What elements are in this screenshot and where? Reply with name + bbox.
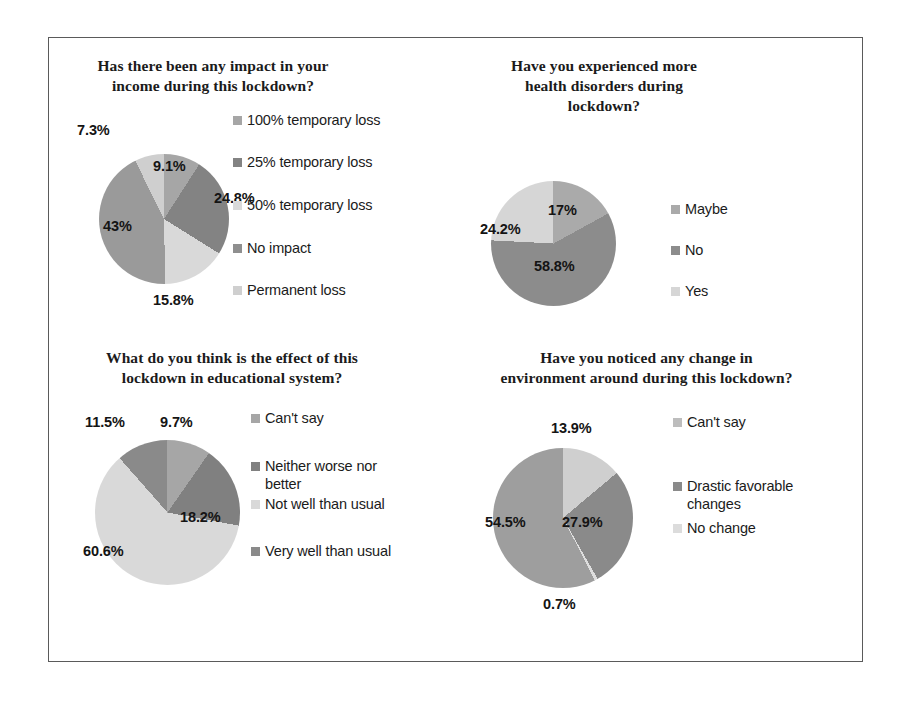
legend-swatch-icon: [233, 244, 242, 253]
pie-slices-health-disorders: [491, 181, 616, 306]
chart-panel-education-effect: What do you think is the effect of this …: [55, 348, 455, 648]
chart-title-education-effect: What do you think is the effect of this …: [67, 348, 397, 388]
legend-item-no[interactable]: No: [671, 242, 836, 260]
pie-label-no-impact: 43%: [103, 218, 132, 234]
legend-swatch-icon: [251, 462, 260, 471]
legend-label: No impact: [247, 240, 311, 258]
legend-swatch-icon: [671, 287, 680, 296]
pie-label-cant-say: 9.7%: [160, 414, 193, 430]
chart-title-environment-change: Have you noticed any change in environme…: [449, 348, 844, 388]
legend-item-50-temporary-loss[interactable]: 50% temporary loss: [233, 197, 428, 215]
legend-label: Maybe: [685, 201, 728, 219]
legend-item-maybe[interactable]: Maybe: [671, 201, 836, 219]
legend-swatch-icon: [233, 201, 242, 210]
legend-item-drastic-favorable-changes[interactable]: Drastic favorable changes: [673, 478, 848, 513]
legend-item-no-change[interactable]: No change: [673, 520, 848, 538]
chart-panel-environment-change: Have you noticed any change in environme…: [445, 348, 860, 648]
legend-swatch-icon: [251, 500, 260, 509]
legend-item-yes[interactable]: Yes: [671, 283, 836, 301]
legend-label: Permanent loss: [247, 282, 346, 300]
legend-item-very-well-than-usual[interactable]: Very well than usual: [251, 543, 446, 561]
legend-health-disorders: Maybe No Yes: [671, 201, 836, 300]
legend-label: Yes: [685, 283, 708, 301]
legend-education-effect: Can't say Neither worse nor better Not w…: [251, 410, 446, 561]
legend-label: 25% temporary loss: [247, 154, 372, 172]
pie-label-no: 58.8%: [534, 258, 575, 274]
pie-label-neither-worse-nor-better: 18.2%: [180, 509, 221, 525]
chart-panel-health-disorders: Have you experienced more health disorde…: [449, 56, 849, 346]
pie-label-permanent-loss: 7.3%: [77, 122, 110, 138]
legend-swatch-icon: [251, 414, 260, 423]
legend-swatch-icon: [251, 547, 260, 556]
pie-label-maybe: 17%: [548, 202, 577, 218]
legend-label: No change: [687, 520, 756, 538]
legend-swatch-icon: [233, 286, 242, 295]
legend-swatch-icon: [673, 418, 682, 427]
legend-item-cant-say[interactable]: Can't say: [673, 414, 848, 432]
legend-swatch-icon: [671, 205, 680, 214]
legend-item-no-impact[interactable]: No impact: [233, 240, 428, 258]
legend-label: No: [685, 242, 703, 260]
pie-label-50-temporary-loss: 15.8%: [153, 292, 194, 308]
legend-item-100-temporary-loss[interactable]: 100% temporary loss: [233, 112, 428, 130]
chart-title-health-disorders: Have you experienced more health disorde…: [459, 56, 749, 115]
figure-frame: Has there been any impact in your income…: [48, 37, 863, 662]
pie-label-no-change: 0.7%: [543, 596, 576, 612]
pie-label-very-well-than-usual: 11.5%: [85, 414, 125, 430]
pie-label-drastic-favorable-changes-major: 54.5%: [485, 514, 526, 530]
pie-label-yes: 24.2%: [480, 221, 521, 237]
legend-swatch-icon: [673, 524, 682, 533]
legend-income-impact: 100% temporary loss 25% temporary loss 5…: [233, 112, 428, 300]
legend-swatch-icon: [233, 116, 242, 125]
pie-label-drastic-favorable-changes: 27.9%: [562, 514, 603, 530]
pie-chart-health-disorders: [491, 181, 616, 306]
legend-swatch-icon: [671, 246, 680, 255]
legend-swatch-icon: [233, 158, 242, 167]
chart-title-income-impact: Has there been any impact in your income…: [63, 56, 363, 96]
legend-item-permanent-loss[interactable]: Permanent loss: [233, 282, 428, 300]
legend-label: Drastic favorable changes: [687, 478, 793, 513]
legend-item-not-well-than-usual[interactable]: Not well than usual: [251, 496, 446, 514]
pie-label-100-temporary-loss: 9.1%: [153, 158, 186, 174]
legend-label: 50% temporary loss: [247, 197, 372, 215]
legend-environment-change: Can't say Drastic favorable changes No c…: [673, 414, 848, 538]
legend-label: 100% temporary loss: [247, 112, 380, 130]
chart-panel-income-impact: Has there been any impact in your income…: [55, 56, 435, 346]
legend-item-cant-say[interactable]: Can't say: [251, 410, 446, 428]
legend-label: Neither worse nor better: [265, 458, 377, 493]
pie-label-not-well-than-usual: 60.6%: [83, 543, 124, 559]
legend-item-25-temporary-loss[interactable]: 25% temporary loss: [233, 154, 428, 172]
legend-item-neither-worse-nor-better[interactable]: Neither worse nor better: [251, 458, 446, 493]
legend-label: Can't say: [265, 410, 324, 428]
legend-swatch-icon: [673, 482, 682, 491]
legend-label: Very well than usual: [265, 543, 391, 561]
legend-label: Not well than usual: [265, 496, 385, 514]
legend-label: Can't say: [687, 414, 746, 432]
pie-label-cant-say: 13.9%: [551, 420, 592, 436]
